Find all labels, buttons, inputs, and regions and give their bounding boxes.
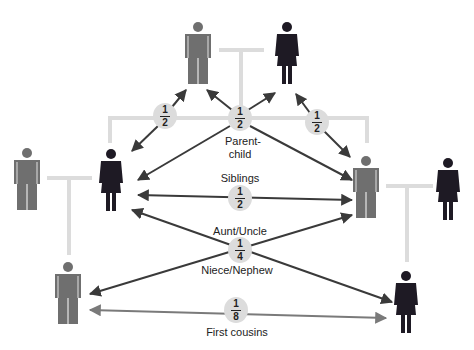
- male-figure-cousin: [55, 262, 81, 324]
- arrow-parent-right-down: [324, 131, 350, 157]
- label-first-cousins: First cousins: [206, 326, 268, 339]
- male-figure-grandfather: [185, 22, 211, 84]
- arrow-aunt-to-cousin: [132, 210, 392, 302]
- female-figure-grandmother: [275, 22, 299, 84]
- female-figure-cousin: [394, 271, 418, 333]
- badge-parent-child-right: 1 2: [305, 109, 329, 135]
- label-parent-child-line2: child: [229, 148, 252, 161]
- arrow-center-to-aunt: [138, 126, 230, 180]
- badge-siblings: 1 2: [228, 185, 252, 211]
- connector-left-couple: [47, 178, 92, 255]
- numerator: 1: [233, 299, 239, 309]
- denominator: 2: [314, 124, 320, 134]
- female-figure-right-spouse: [436, 158, 460, 220]
- label-aunt-uncle: Aunt/Uncle: [213, 225, 267, 238]
- numerator: 1: [237, 187, 243, 197]
- badge-parent-child-left: 1 2: [153, 103, 177, 129]
- label-parent-child-line1: Parent-: [225, 135, 261, 148]
- denominator: 2: [237, 200, 243, 210]
- connector-right-couple: [386, 186, 433, 262]
- label-siblings: Siblings: [221, 172, 260, 185]
- badge-aunt-uncle: 1 4: [228, 237, 252, 263]
- badge-parent-child-center: 1 2: [228, 105, 252, 131]
- label-niece-nephew: Niece/Nephew: [201, 264, 273, 277]
- denominator: 2: [162, 118, 168, 128]
- numerator: 1: [314, 111, 320, 121]
- arrow-parent-left-up: [172, 90, 186, 107]
- denominator: 8: [233, 312, 239, 322]
- male-figure-father: [353, 156, 379, 218]
- connector-grandparents: [219, 50, 264, 112]
- numerator: 1: [237, 107, 243, 117]
- male-figure-left-spouse: [14, 148, 40, 210]
- arrow-parent-right-up: [296, 94, 310, 113]
- arrow-center-to-grandmother: [248, 93, 275, 110]
- numerator: 1: [237, 239, 243, 249]
- denominator: 2: [237, 120, 243, 130]
- arrow-center-to-grandfather: [207, 90, 232, 110]
- arrow-center-to-father: [250, 126, 352, 180]
- female-figure-aunt: [99, 149, 123, 211]
- denominator: 4: [237, 252, 243, 262]
- numerator: 1: [162, 105, 168, 115]
- arrow-parent-left-down: [132, 126, 158, 151]
- badge-first-cousins: 1 8: [224, 297, 248, 323]
